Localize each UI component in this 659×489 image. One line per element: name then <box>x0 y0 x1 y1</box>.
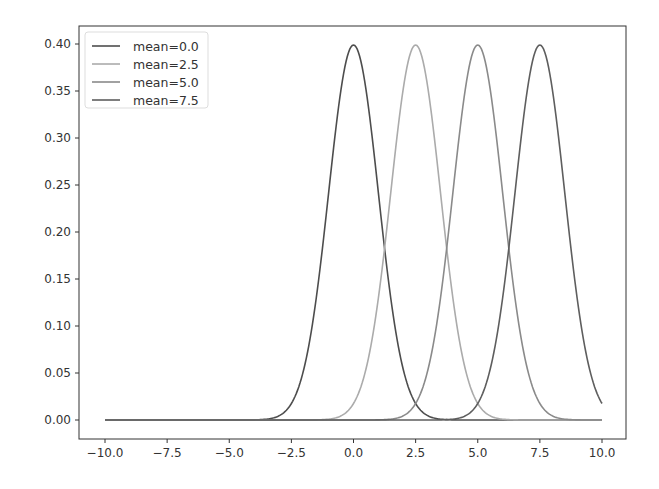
y-axis: 0.000.050.100.150.200.250.300.350.40 <box>44 37 79 427</box>
x-tick-label: 5.0 <box>468 446 487 460</box>
y-tick-label: 0.30 <box>44 131 71 145</box>
x-tick-label: −5.0 <box>215 446 244 460</box>
x-tick-label: 7.5 <box>530 446 549 460</box>
line-chart: −10.0−7.5−5.0−2.50.02.55.07.510.0 0.000.… <box>0 0 659 489</box>
legend: mean=0.0mean=2.5mean=5.0mean=7.5 <box>85 32 208 108</box>
y-tick-label: 0.35 <box>44 84 71 98</box>
x-tick-label: −7.5 <box>153 446 182 460</box>
y-tick-label: 0.00 <box>44 413 71 427</box>
legend-label: mean=0.0 <box>133 39 199 54</box>
x-tick-label: 2.5 <box>406 446 425 460</box>
y-tick-label: 0.10 <box>44 319 71 333</box>
legend-label: mean=7.5 <box>133 93 199 108</box>
x-tick-label: −10.0 <box>87 446 124 460</box>
y-tick-label: 0.15 <box>44 272 71 286</box>
legend-label: mean=2.5 <box>133 57 199 72</box>
x-tick-label: −2.5 <box>277 446 306 460</box>
legend-label: mean=5.0 <box>133 75 199 90</box>
x-tick-label: 10.0 <box>589 446 616 460</box>
x-axis: −10.0−7.5−5.0−2.50.02.55.07.510.0 <box>87 439 616 460</box>
y-tick-label: 0.40 <box>44 37 71 51</box>
y-tick-label: 0.20 <box>44 225 71 239</box>
y-tick-label: 0.05 <box>44 366 71 380</box>
x-tick-label: 0.0 <box>344 446 363 460</box>
y-tick-label: 0.25 <box>44 178 71 192</box>
